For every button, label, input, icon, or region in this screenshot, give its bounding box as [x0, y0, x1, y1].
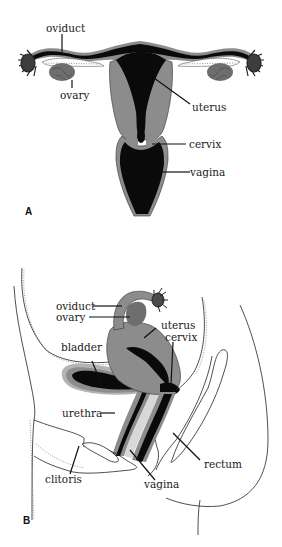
abdominal-wall-outline	[14, 286, 35, 520]
label-b-clitoris: clitoris	[45, 473, 82, 485]
label-b-urethra: urethra	[62, 407, 102, 419]
vagina-lumen	[120, 142, 164, 214]
label-b-cervix: cervix	[165, 331, 197, 343]
label-a-oviduct: oviduct	[46, 22, 86, 34]
label-a-uterus: uterus	[192, 101, 226, 113]
panel-b: oviduct ovary uterus cervix bladder uret…	[14, 268, 268, 535]
panel-label-b: B	[23, 515, 30, 526]
label-b-rectum: rectum	[204, 458, 242, 470]
ovary-left	[49, 63, 75, 81]
label-a-cervix: cervix	[189, 138, 221, 150]
label-b-uterus: uterus	[161, 319, 195, 331]
buttock-line	[198, 500, 200, 535]
label-a-vagina: vagina	[189, 166, 225, 178]
cervical-canal	[137, 129, 145, 143]
label-b-bladder: bladder	[61, 341, 103, 353]
posterior-peritoneum-stipple	[196, 300, 206, 374]
label-a-ovary: ovary	[60, 89, 90, 101]
pubic-hair	[30, 420, 84, 520]
fimbriae-b	[152, 288, 168, 312]
ovary-right	[207, 63, 233, 81]
panel-label-a: A	[25, 206, 32, 217]
label-b-vagina: vagina	[143, 478, 179, 490]
leader-b-clitoris	[70, 446, 79, 474]
ovary-b	[126, 302, 146, 326]
reproductive-anatomy-diagram: oviduct ovary uterus cervix vagina A	[0, 0, 282, 547]
panel-a: oviduct ovary uterus cervix vagina A	[18, 22, 264, 217]
label-b-ovary: ovary	[56, 311, 86, 323]
